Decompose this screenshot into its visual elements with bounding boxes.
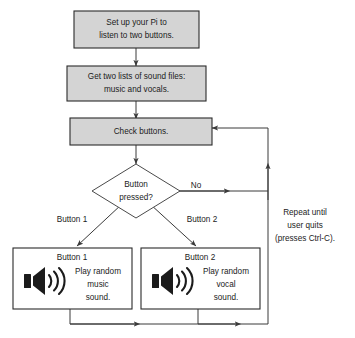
flowchart-diagram: Set up your Pi to listen to two buttons.…: [0, 0, 355, 338]
node-decision-line2: pressed?: [119, 193, 153, 202]
node-lists: Get two lists of sound files: music and …: [67, 66, 206, 101]
flowchart-canvas: Set up your Pi to listen to two buttons.…: [0, 0, 355, 338]
node-decision: Button pressed?: [92, 164, 180, 218]
node-action-button2-line1: Play random: [203, 267, 249, 276]
edge-label-no: No: [191, 181, 202, 190]
node-action-button2: Button 2 Play random vocal sound.: [141, 248, 260, 309]
node-setup: Set up your Pi to listen to two buttons.: [74, 11, 199, 48]
loop-note-line3: (presses Ctrl-C).: [275, 234, 335, 243]
node-lists-line2: music and vocals.: [104, 85, 169, 94]
loop-note-line1: Repeat until: [283, 208, 327, 217]
node-action-button2-line2: vocal: [216, 280, 235, 289]
node-action-button2-line3: sound.: [214, 293, 239, 302]
loop-note: Repeat until user quits (presses Ctrl-C)…: [275, 208, 335, 243]
node-check-buttons: Check buttons.: [70, 118, 212, 145]
edge-decision-to-action-right: [150, 204, 196, 246]
node-lists-line1: Get two lists of sound files:: [88, 72, 185, 81]
node-setup-line1: Set up your Pi to: [106, 18, 167, 27]
node-decision-line1: Button: [124, 180, 148, 189]
node-action-button1-line1: Play random: [75, 267, 121, 276]
node-action-button1-line2: music: [87, 280, 108, 289]
edge-label-button2: Button 2: [187, 215, 218, 224]
edge-label-button1: Button 1: [57, 215, 88, 224]
node-action-button1-line3: sound.: [86, 293, 111, 302]
node-action-button1-heading: Button 1: [57, 253, 88, 262]
edge-decision-to-action-left: [77, 204, 122, 246]
node-check-buttons-label: Check buttons.: [114, 127, 169, 136]
node-setup-line2: listen to two buttons.: [99, 31, 174, 40]
node-action-button1: Button 1 Play random music sound.: [13, 248, 132, 309]
node-decision-shape: [92, 164, 180, 218]
node-action-button2-heading: Button 2: [185, 253, 216, 262]
node-setup-box: [74, 11, 199, 48]
loop-note-line2: user quits: [287, 221, 323, 230]
